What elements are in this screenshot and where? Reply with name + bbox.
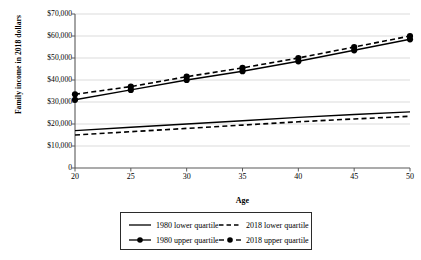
legend-item-1980-upper-quartile[interactable]: 1980 upper quartile bbox=[128, 233, 219, 247]
x-tick-label: 35 bbox=[228, 172, 258, 181]
x-tick-label: 45 bbox=[339, 172, 369, 181]
data-series-layer bbox=[72, 33, 413, 135]
legend-label: 2018 lower quartile bbox=[246, 221, 309, 230]
data-point-marker bbox=[295, 55, 301, 61]
axis-ticks bbox=[72, 14, 411, 172]
plot-area bbox=[0, 0, 421, 200]
legend-swatch-dashed-line bbox=[218, 220, 242, 230]
x-tick-label: 30 bbox=[172, 172, 202, 181]
legend-label: 1980 upper quartile bbox=[156, 236, 219, 245]
legend-swatch-solid-line-marker bbox=[128, 235, 152, 245]
data-point-marker bbox=[407, 33, 413, 39]
data-point-marker bbox=[351, 44, 357, 50]
chart-container: Family income in 2018 dollars $70,000 $6… bbox=[0, 0, 421, 260]
x-tick-label: 25 bbox=[116, 172, 146, 181]
data-point-marker bbox=[128, 84, 134, 90]
data-point-marker bbox=[184, 74, 190, 80]
series-line-0 bbox=[75, 112, 410, 131]
data-point-marker bbox=[239, 65, 245, 71]
x-axis-title: Age bbox=[75, 196, 410, 205]
data-point-marker bbox=[72, 97, 78, 103]
gridlines bbox=[75, 14, 410, 146]
x-tick-label: 50 bbox=[395, 172, 421, 181]
legend-swatch-dashed-line-marker bbox=[218, 235, 242, 245]
x-tick-label: 40 bbox=[283, 172, 313, 181]
legend-label: 1980 lower quartile bbox=[156, 221, 219, 230]
data-point-marker bbox=[72, 91, 78, 97]
legend-swatch-solid-line bbox=[128, 220, 152, 230]
legend-item-1980-lower-quartile[interactable]: 1980 lower quartile bbox=[128, 218, 219, 232]
x-tick-label: 20 bbox=[60, 172, 90, 181]
chart-legend: 1980 lower quartile 2018 lower quartile … bbox=[120, 212, 312, 250]
series-line-1 bbox=[75, 116, 410, 135]
legend-label: 2018 upper quartile bbox=[246, 236, 309, 245]
legend-item-2018-upper-quartile[interactable]: 2018 upper quartile bbox=[218, 233, 309, 247]
legend-item-2018-lower-quartile[interactable]: 2018 lower quartile bbox=[218, 218, 309, 232]
